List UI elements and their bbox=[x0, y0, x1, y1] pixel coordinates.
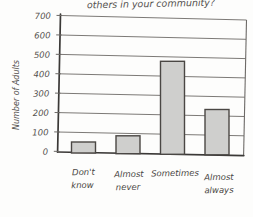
y-tick-label-300: 300 bbox=[33, 88, 49, 98]
bar-almost-never[interactable] bbox=[116, 136, 140, 154]
gridline-300 bbox=[59, 93, 245, 97]
chart-title: others in your community? bbox=[87, 0, 215, 10]
x-tick-label-3-line1: Almost bbox=[203, 172, 234, 183]
x-tick-label-1-line1: Almost bbox=[113, 169, 144, 180]
chart-canvas: others in your community? Number of Adul… bbox=[0, 0, 253, 217]
gridline-600 bbox=[60, 35, 246, 39]
y-tick-label-400: 400 bbox=[33, 69, 49, 79]
gridline-700 bbox=[61, 16, 247, 21]
y-tick-label-0: 0 bbox=[43, 147, 49, 157]
y-tick-label-200: 200 bbox=[33, 108, 49, 118]
x-tick-label-0-line1: Don't bbox=[72, 167, 96, 177]
y-tick-label-700: 700 bbox=[35, 11, 51, 21]
x-tick-label-1-line2: never bbox=[116, 182, 141, 192]
bar-sometimes[interactable] bbox=[161, 61, 185, 154]
x-tick-label-0-line2: know bbox=[71, 180, 94, 190]
y-tick-label-500: 500 bbox=[34, 50, 50, 60]
bar-dont-know[interactable] bbox=[72, 142, 96, 153]
y-axis-title: Number of Adults bbox=[12, 60, 21, 130]
gridline-400 bbox=[59, 74, 245, 78]
y-tick-label-100: 100 bbox=[32, 127, 48, 137]
bars-group bbox=[72, 61, 230, 155]
y-tick-label-600: 600 bbox=[34, 30, 50, 40]
bar-almost-always[interactable] bbox=[205, 110, 229, 155]
gridline-500 bbox=[60, 54, 246, 58]
x-tick-label-3-line2: always bbox=[204, 185, 234, 196]
y-tick-labels: 700 600 500 400 300 200 100 0 bbox=[32, 11, 51, 157]
bar-chart: others in your community? Number of Adul… bbox=[0, 0, 253, 217]
x-tick-label-2-line1: Sometimes bbox=[151, 168, 199, 179]
x-tick-labels: Don't know Almost never Sometimes Almost… bbox=[71, 167, 234, 195]
plot-right-edge bbox=[244, 20, 247, 155]
